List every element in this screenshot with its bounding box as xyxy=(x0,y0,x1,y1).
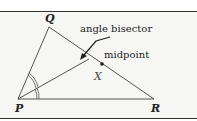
arrow-head-icon xyxy=(80,53,87,60)
vertex-label-q: Q xyxy=(45,13,55,24)
angle-bisector-label: angle bisector xyxy=(80,24,152,34)
angle-arc-upper-inner xyxy=(28,75,36,88)
vertex-label-r: R xyxy=(151,103,160,114)
point-x-label: X xyxy=(94,71,102,82)
angle-arc-upper xyxy=(29,73,38,87)
angle-arc-lower xyxy=(35,89,37,99)
midpoint-label: midpoint xyxy=(104,50,149,60)
triangle-diagram xyxy=(0,0,197,121)
angle-bisector-line xyxy=(18,59,89,99)
vertex-label-p: P xyxy=(15,103,23,114)
triangle-pqr xyxy=(18,27,154,99)
midpoint-dot xyxy=(100,62,104,66)
